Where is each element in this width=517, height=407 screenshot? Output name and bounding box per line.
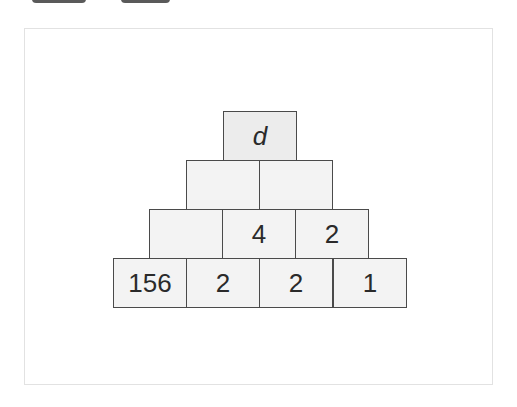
pyramid-cell-r4-c1: 156 xyxy=(113,258,187,308)
pyramid-cell-r2-c1 xyxy=(186,160,260,210)
pyramid-cell-r3-c2: 4 xyxy=(222,209,296,259)
pyramid-cell-r4-c3: 2 xyxy=(259,258,333,308)
pyramid-cell-r4-c2: 2 xyxy=(186,258,260,308)
pyramid-cell-r3-c3: 2 xyxy=(295,209,369,259)
pyramid-cell-r3-c1 xyxy=(149,209,223,259)
pyramid-cell-r2-c2 xyxy=(259,160,333,210)
pyramid-cell-r4-c4: 1 xyxy=(333,258,407,308)
toolbar-button-1[interactable] xyxy=(32,0,86,3)
pyramid-cell-apex: d xyxy=(223,111,297,161)
toolbar-button-2[interactable] xyxy=(121,0,170,3)
